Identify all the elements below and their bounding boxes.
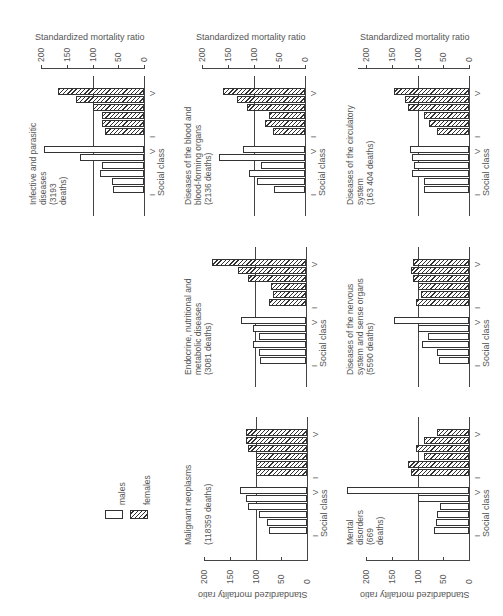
axis-tick-label: 150 (387, 570, 397, 584)
bar-female (424, 112, 469, 119)
axis-tick-label: 200 (361, 48, 371, 62)
bar-female (246, 437, 307, 444)
bar-female (418, 283, 470, 290)
bar-female (408, 104, 469, 111)
bar-female (421, 291, 469, 298)
legend-swatch-males (105, 510, 123, 519)
bar-female (413, 275, 469, 282)
axis-tick-label: 0 (139, 57, 149, 62)
bar-female (424, 437, 469, 444)
bar-male (240, 487, 307, 494)
axis-tick (392, 65, 393, 69)
axis-tick-label: 150 (62, 48, 72, 62)
bar-male (102, 162, 144, 169)
bar-female (408, 461, 469, 468)
bar-female (437, 128, 469, 135)
class-label-i: I (148, 136, 158, 138)
panel-title-nervous: Diseases of the nervous system and sense… (345, 278, 375, 375)
bar-male (437, 511, 469, 518)
axis-tick (41, 65, 42, 69)
bar-male (261, 162, 305, 169)
bar-male (412, 154, 469, 161)
axis-tick-label: 50 (438, 575, 448, 584)
axis-tick (281, 557, 282, 561)
bar-female (416, 445, 469, 452)
baseline-axis (306, 247, 307, 387)
axis-tick (256, 557, 257, 561)
bar-female (265, 120, 305, 127)
axis-tick-label: 200 (199, 570, 209, 584)
bar-female (223, 88, 305, 95)
axis-tick-label: 150 (387, 48, 397, 62)
panel-title-circulatory: Diseases of the circulatory system (163 … (345, 105, 375, 205)
baseline-axis (144, 76, 145, 216)
panel-title-mental: Mental disorders (669 deaths) (345, 510, 385, 545)
axis-tick-label: 200 (36, 48, 46, 62)
bar-female (58, 88, 144, 95)
class-label-v: V (473, 91, 483, 96)
bar-male (113, 186, 144, 193)
bar-female (405, 96, 469, 103)
bar-female (102, 112, 144, 119)
axis-tick (305, 65, 306, 69)
axis-tick-label: 100 (413, 48, 423, 62)
axis-tick (418, 65, 419, 69)
axis-tick (144, 65, 145, 69)
axis-tick-label: 0 (300, 57, 310, 62)
axis-tick (469, 65, 470, 69)
bar-male (100, 170, 144, 177)
axis-tick (202, 65, 203, 69)
social-class-label: Social class (318, 319, 328, 367)
axis-tick (230, 557, 231, 561)
axis-tick (443, 557, 444, 561)
smr-axis (358, 68, 469, 69)
bar-female (413, 259, 469, 266)
bar-female (105, 128, 144, 135)
bar-male (253, 325, 306, 332)
axis-tick (204, 557, 205, 561)
bar-male (267, 519, 307, 526)
axis-tick (418, 557, 419, 561)
bar-male (248, 503, 307, 510)
class-label-v: V (310, 262, 320, 267)
class-label-i: I (309, 136, 319, 138)
axis-tick (366, 557, 367, 561)
legend-label-females: females (142, 475, 152, 505)
axis-tick-label: 100 (88, 48, 98, 62)
axis-tick-label: 50 (274, 53, 284, 62)
bar-female (437, 429, 469, 436)
axis-tick (279, 65, 280, 69)
class-label-v: V (473, 432, 483, 437)
bar-female (416, 299, 469, 306)
bar-male (418, 325, 470, 332)
bar-female (256, 469, 308, 476)
axis-tick (392, 557, 393, 561)
bar-female (246, 429, 307, 436)
legend-label-males: males (117, 482, 127, 505)
social-class-label: Social class (481, 148, 491, 196)
bar-female (269, 299, 306, 306)
axis-tick (307, 557, 308, 561)
bar-male (257, 178, 305, 185)
class-label-i: I (473, 307, 483, 309)
class-label-i: I (311, 477, 321, 479)
axis-title: Standardized mortality ratio (360, 590, 470, 600)
bar-male (243, 146, 305, 153)
bar-male (424, 178, 469, 185)
bar-female (93, 104, 145, 111)
bar-female (271, 283, 306, 290)
baseline-axis (305, 76, 306, 216)
bar-female (273, 128, 305, 135)
bar-male (260, 357, 306, 364)
axis-title: Standardized mortality ratio (35, 32, 145, 42)
bar-male (440, 503, 469, 510)
bar-male (436, 519, 469, 526)
bar-male (249, 170, 305, 177)
bar-male (422, 341, 469, 348)
bar-female (256, 461, 308, 468)
class-label-i: I (310, 307, 320, 309)
bar-male (112, 178, 144, 185)
axis-tick-label: 100 (413, 570, 423, 584)
bar-female (248, 445, 307, 452)
bar-male (246, 495, 307, 502)
